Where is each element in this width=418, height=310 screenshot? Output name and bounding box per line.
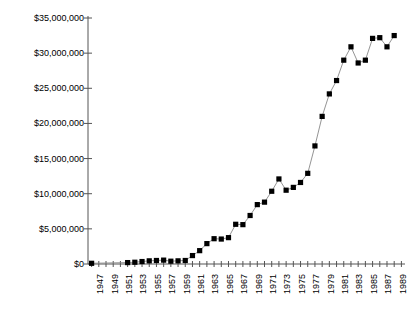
data-series-markers: [89, 33, 397, 266]
x-axis-tick-label: 1951: [124, 274, 134, 294]
data-point-marker: [298, 180, 303, 185]
x-axis-tick-label: 1973: [282, 274, 292, 294]
data-point-marker: [248, 213, 253, 218]
data-point-marker: [334, 78, 339, 83]
data-point-marker: [139, 259, 144, 264]
x-axis-tick-label: 1987: [383, 274, 393, 294]
data-point-marker: [363, 58, 368, 63]
data-point-marker: [356, 60, 361, 65]
data-point-marker: [392, 33, 397, 38]
data-point-marker: [204, 241, 209, 246]
data-point-marker: [226, 235, 231, 240]
data-point-marker: [327, 91, 332, 96]
x-axis-tick-label: 1953: [138, 274, 148, 294]
data-point-marker: [320, 114, 325, 119]
data-point-marker: [269, 189, 274, 194]
x-axis-tick-label: 1957: [167, 274, 177, 294]
x-axis-tick-label: 1971: [268, 274, 278, 294]
data-point-marker: [161, 258, 166, 263]
x-axis-tick-label: 1977: [311, 274, 321, 294]
data-point-marker: [384, 44, 389, 49]
data-point-marker: [305, 171, 310, 176]
data-point-marker: [175, 258, 180, 263]
x-axis-tick-label: 1981: [340, 274, 350, 294]
data-point-marker: [197, 248, 202, 253]
data-point-marker: [284, 188, 289, 193]
data-point-marker: [255, 202, 260, 207]
data-point-marker: [211, 236, 216, 241]
x-axis-tick-label: 1969: [254, 274, 264, 294]
data-point-marker: [377, 35, 382, 40]
data-point-marker: [190, 253, 195, 258]
data-point-marker: [132, 260, 137, 265]
x-axis-tick-label: 1963: [210, 274, 220, 294]
chart-container: $0$5,000,000$10,000,000$15,000,000$20,00…: [0, 0, 418, 310]
x-axis-labels: 1947194919511953195519571959196119631965…: [0, 270, 418, 310]
x-axis-tick-label: 1989: [398, 274, 408, 294]
x-axis-tick-label: 1979: [326, 274, 336, 294]
x-axis-tick-label: 1967: [239, 274, 249, 294]
data-point-marker: [168, 259, 173, 264]
chart-plot-area: [0, 0, 418, 310]
data-point-marker: [341, 58, 346, 63]
data-point-marker: [348, 44, 353, 49]
data-point-marker: [89, 261, 94, 266]
data-point-marker: [291, 185, 296, 190]
data-series-line: [92, 36, 395, 264]
x-axis-tick-label: 1955: [153, 274, 163, 294]
data-point-marker: [154, 258, 159, 263]
x-axis-tick-label: 1965: [225, 274, 235, 294]
x-axis-tick-label: 1975: [297, 274, 307, 294]
data-point-marker: [312, 143, 317, 148]
data-point-marker: [240, 222, 245, 227]
data-point-marker: [262, 200, 267, 205]
x-axis-tick-label: 1959: [182, 274, 192, 294]
data-point-marker: [147, 258, 152, 263]
data-point-marker: [233, 222, 238, 227]
data-point-marker: [183, 258, 188, 263]
x-axis-tick-label: 1983: [354, 274, 364, 294]
data-point-marker: [219, 236, 224, 241]
x-axis-tick-label: 1961: [196, 274, 206, 294]
data-point-marker: [276, 176, 281, 181]
x-axis-tick-label: 1985: [369, 274, 379, 294]
data-point-marker: [370, 36, 375, 41]
data-point-marker: [125, 260, 130, 265]
x-axis-tick-label: 1949: [110, 274, 120, 294]
x-axis-tick-label: 1947: [95, 274, 105, 294]
